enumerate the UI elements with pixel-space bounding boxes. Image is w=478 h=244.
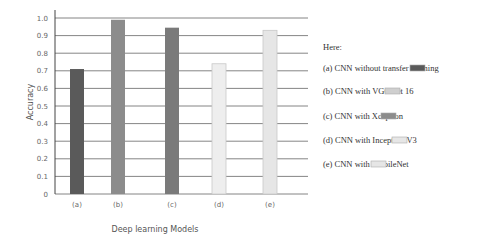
y-tick-label: 0.5	[37, 103, 48, 111]
y-tick-label: 0.8	[37, 50, 48, 58]
y-tick-label: 1.0	[37, 15, 48, 23]
legend-swatch	[385, 88, 400, 94]
bar-b	[111, 20, 125, 194]
bar-e	[263, 30, 277, 194]
legend: Here: (a) CNN without transfer learning(…	[323, 42, 439, 169]
y-tick-label: 0.6	[37, 85, 49, 93]
y-axis-ticks: 00.10.20.30.40.50.60.70.80.91.0	[37, 15, 49, 199]
x-category-label: (a)	[72, 201, 82, 209]
x-category-label: (d)	[214, 201, 224, 209]
y-tick-label: 0.4	[37, 120, 49, 128]
x-axis-title: Deep learning Models	[112, 225, 199, 234]
y-tick-label: 0.2	[37, 155, 48, 163]
x-category-label: (e)	[265, 201, 275, 209]
y-tick-label: 0.7	[37, 67, 48, 75]
y-tick-label: 0.1	[37, 173, 48, 181]
x-category-label: (c)	[167, 201, 177, 209]
y-tick-label: 0.3	[37, 138, 48, 146]
bars	[70, 20, 277, 194]
legend-entry-label: (e) CNN with MobileNet	[323, 159, 409, 169]
legend-title: Here:	[323, 42, 342, 52]
y-axis-title: Accuracy	[26, 83, 35, 120]
legend-swatch	[371, 161, 386, 167]
legend-swatch	[381, 113, 396, 119]
legend-swatch	[392, 137, 407, 143]
bar-c	[165, 28, 179, 194]
bar-chart: 00.10.20.30.40.50.60.70.80.91.0 (a)(b)(c…	[0, 0, 478, 244]
x-axis-categories: (a)(b)(c)(d)(e)	[72, 201, 275, 209]
legend-swatch	[410, 65, 425, 71]
bar-d	[212, 64, 226, 194]
y-tick-label: 0.9	[37, 32, 48, 40]
bar-a	[70, 69, 84, 194]
y-tick-label: 0	[44, 191, 48, 199]
x-category-label: (b)	[113, 201, 123, 209]
